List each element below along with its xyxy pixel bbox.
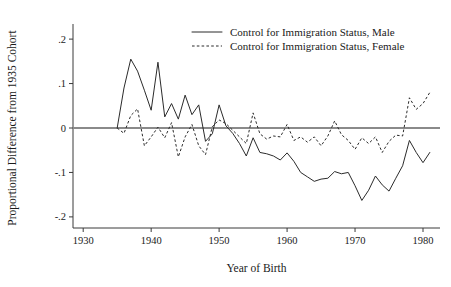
y-axis-title: Proportional Difference from 1935 Cohort <box>6 30 19 226</box>
x-tick-label-3: 1960 <box>277 235 298 246</box>
x-tick-label-1: 1940 <box>141 235 162 246</box>
y-tick-label-2: 0 <box>61 123 66 134</box>
chart-figure: .2.10-.1-.2193019401950196019701980Year … <box>0 0 451 287</box>
series-line-male <box>117 59 430 200</box>
x-axis-title: Year of Birth <box>226 262 286 274</box>
x-tick-label-4: 1970 <box>345 235 366 246</box>
legend-label-0: Control for Immigration Status, Male <box>230 26 395 38</box>
series-line-female <box>117 92 430 156</box>
chart-canvas: .2.10-.1-.2193019401950196019701980Year … <box>6 24 440 274</box>
y-tick-label-1: .1 <box>58 78 66 89</box>
x-tick-label-2: 1950 <box>209 235 230 246</box>
line-chart: .2.10-.1-.2193019401950196019701980Year … <box>0 0 451 287</box>
x-tick-label-5: 1980 <box>413 235 434 246</box>
y-tick-label-0: .2 <box>58 34 66 45</box>
y-tick-label-3: -.1 <box>55 167 66 178</box>
legend-label-1: Control for Immigration Status, Female <box>230 40 405 52</box>
y-tick-label-4: -.2 <box>55 211 66 222</box>
x-tick-label-0: 1930 <box>73 235 94 246</box>
